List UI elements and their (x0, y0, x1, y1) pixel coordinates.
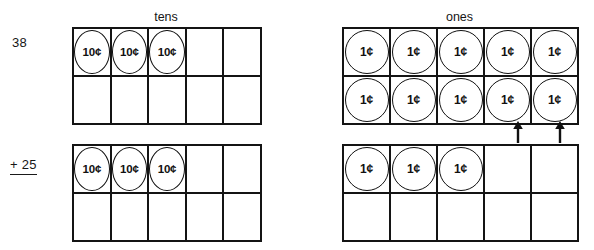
dime-coin-icon: 10¢ (149, 147, 185, 191)
ten-frame-cell (187, 194, 225, 242)
ten-frame-cell: 1¢ (485, 29, 532, 77)
ten-frame-cell: 1¢ (391, 77, 438, 125)
ten-frame-cell: 10¢ (74, 29, 112, 77)
ten-frame-cell: 1¢ (344, 146, 391, 194)
ten-frame-cell: 1¢ (485, 77, 532, 125)
ten-frame-cell (532, 194, 579, 242)
ten-frame-cell (532, 146, 579, 194)
penny-coin-icon: 1¢ (345, 78, 389, 122)
ten-frame-cell (344, 194, 391, 242)
penny-coin-icon: 1¢ (392, 78, 436, 122)
penny-coin-icon: 1¢ (439, 147, 483, 191)
ten-frame-cell (74, 77, 112, 125)
ten-frame-cell (438, 194, 485, 242)
ten-frame-cell: 1¢ (438, 29, 485, 77)
ten-frame-cell (391, 194, 438, 242)
carry-arrow-ones-column-5 (553, 121, 567, 143)
ten-frame-cell: 1¢ (344, 77, 391, 125)
carry-arrow-ones-column-4 (511, 121, 525, 143)
plus-sign: + (10, 157, 18, 172)
ten-frame-cell: 10¢ (149, 146, 187, 194)
addend-1-value: 38 (12, 35, 27, 50)
place-value-addition-worksheet: 38 +25 tens ones 10¢10¢10¢ 1¢1¢1¢1¢1¢1¢1… (0, 0, 594, 250)
ten-frame-cell (224, 77, 262, 125)
ones-column-heading: ones (342, 11, 577, 24)
ten-frame-cell (187, 146, 225, 194)
tens-frame-addend-1: 10¢10¢10¢ (72, 27, 262, 125)
ones-frame-addend-2: 1¢1¢1¢ (342, 144, 579, 242)
ten-frame-cell (149, 194, 187, 242)
penny-coin-icon: 1¢ (345, 30, 389, 74)
ten-frame-cell: 1¢ (344, 29, 391, 77)
tens-column-heading: tens (72, 11, 260, 24)
penny-coin-icon: 1¢ (486, 78, 530, 122)
ten-frame-cell: 10¢ (74, 146, 112, 194)
addend-2-value: 25 (22, 157, 37, 172)
ten-frame-cell (224, 29, 262, 77)
ten-frame-cell (187, 29, 225, 77)
penny-coin-icon: 1¢ (392, 30, 436, 74)
ten-frame-cell (485, 194, 532, 242)
ten-frame-cell: 1¢ (391, 146, 438, 194)
ten-frame-cell (187, 77, 225, 125)
dime-coin-icon: 10¢ (112, 147, 148, 191)
ones-frame-addend-1: 1¢1¢1¢1¢1¢1¢1¢1¢1¢1¢ (342, 27, 579, 125)
addend-2-label: +25 (10, 158, 37, 175)
penny-coin-icon: 1¢ (392, 147, 436, 191)
ten-frame-cell (112, 194, 150, 242)
ten-frame-cell: 1¢ (391, 29, 438, 77)
penny-coin-icon: 1¢ (533, 78, 577, 122)
ten-frame-cell: 1¢ (532, 77, 579, 125)
penny-coin-icon: 1¢ (439, 78, 483, 122)
dime-coin-icon: 10¢ (112, 30, 148, 74)
ten-frame-cell: 10¢ (112, 146, 150, 194)
ten-frame-cell: 1¢ (438, 77, 485, 125)
ten-frame-cell (74, 194, 112, 242)
dime-coin-icon: 10¢ (149, 30, 185, 74)
penny-coin-icon: 1¢ (533, 30, 577, 74)
ten-frame-cell (112, 77, 150, 125)
penny-coin-icon: 1¢ (345, 147, 389, 191)
dime-coin-icon: 10¢ (74, 30, 110, 74)
ten-frame-cell: 10¢ (112, 29, 150, 77)
ten-frame-cell (224, 194, 262, 242)
penny-coin-icon: 1¢ (486, 30, 530, 74)
ten-frame-cell: 1¢ (532, 29, 579, 77)
ten-frame-cell (485, 146, 532, 194)
penny-coin-icon: 1¢ (439, 30, 483, 74)
dime-coin-icon: 10¢ (74, 147, 110, 191)
ten-frame-cell (224, 146, 262, 194)
ten-frame-cell: 10¢ (149, 29, 187, 77)
ten-frame-cell: 1¢ (438, 146, 485, 194)
tens-frame-addend-2: 10¢10¢10¢ (72, 144, 262, 242)
addend-1-label: 38 (12, 36, 27, 49)
ten-frame-cell (149, 77, 187, 125)
